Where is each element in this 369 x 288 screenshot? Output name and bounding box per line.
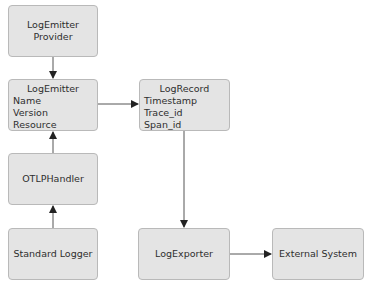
- field-name: Name: [13, 95, 93, 107]
- field-version: Version: [13, 107, 93, 119]
- node-standard-logger: Standard Logger: [8, 228, 98, 280]
- node-label: LogExporter: [155, 248, 213, 260]
- node-label: OTLPHandler: [22, 173, 84, 185]
- field-timestamp: Timestamp: [144, 95, 225, 107]
- field-trace-id: Trace_id: [144, 107, 225, 119]
- node-label: Standard Logger: [14, 248, 93, 260]
- node-log-exporter: LogExporter: [138, 228, 230, 280]
- node-log-emitter: LogEmitter Name Version Resource: [8, 79, 98, 131]
- node-log-emitter-provider: LogEmitter Provider: [8, 5, 98, 57]
- node-title: LogEmitter: [13, 83, 93, 95]
- node-log-record: LogRecord Timestamp Trace_id Span_id: [139, 79, 230, 131]
- node-title: LogRecord: [144, 83, 225, 95]
- field-span-id: Span_id: [144, 119, 225, 131]
- node-external-system: External System: [272, 228, 364, 280]
- node-label-line-1: LogEmitter: [27, 19, 79, 31]
- node-label: External System: [279, 248, 357, 260]
- field-resource: Resource: [13, 119, 93, 131]
- node-label-line-2: Provider: [33, 31, 72, 43]
- node-otlp-handler: OTLPHandler: [8, 153, 98, 205]
